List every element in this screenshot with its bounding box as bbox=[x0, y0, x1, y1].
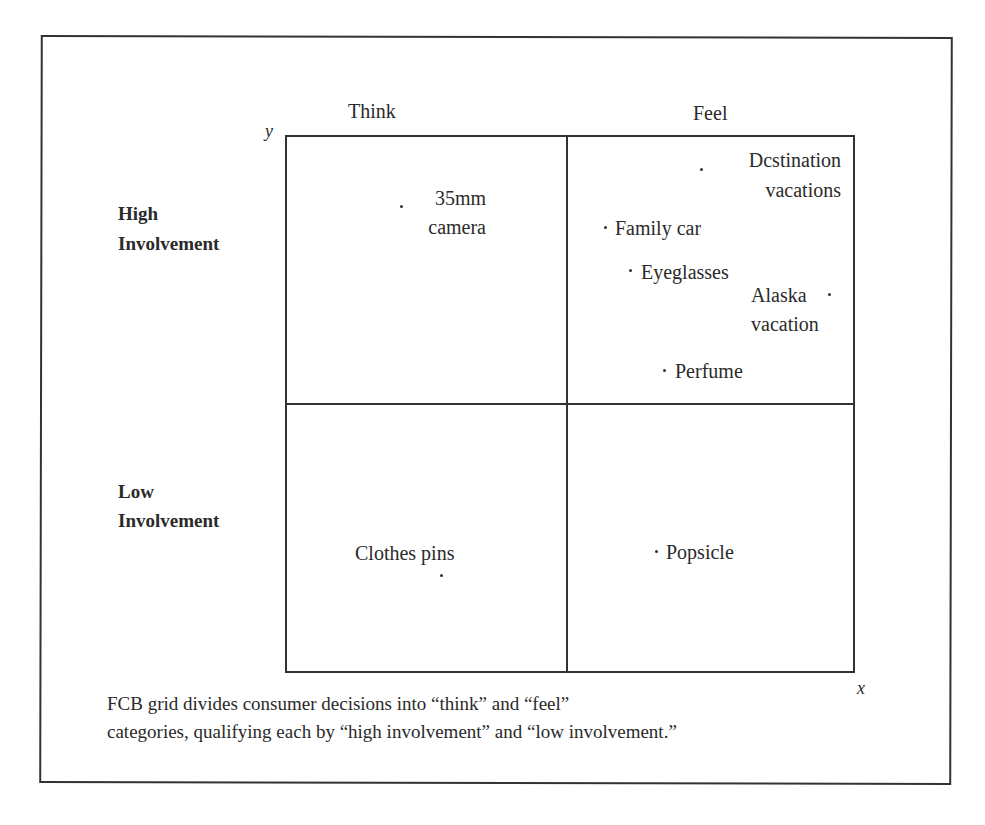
item-eyeglasses: Eyeglasses bbox=[641, 260, 729, 284]
point-dot bbox=[604, 226, 607, 229]
column-label-feel: Feel bbox=[693, 101, 727, 125]
point-dot bbox=[440, 574, 443, 577]
point-dot bbox=[655, 550, 658, 553]
fcb-grid bbox=[285, 135, 855, 673]
row-label-low-2: Involvement bbox=[118, 509, 219, 533]
item-perfume: Perfume bbox=[675, 359, 743, 383]
horizontal-divider bbox=[287, 403, 853, 405]
item-destination-2: vacations bbox=[715, 178, 841, 202]
item-family-car: Family car bbox=[615, 216, 701, 240]
y-axis-label: y bbox=[265, 119, 273, 143]
point-dot bbox=[400, 205, 403, 208]
column-label-think: Think bbox=[348, 99, 396, 123]
row-label-low-1: Low bbox=[118, 480, 154, 504]
item-camera-1: 35mm bbox=[410, 186, 486, 210]
row-label-high-2: Involvement bbox=[118, 232, 219, 256]
row-label-high-1: High bbox=[118, 202, 158, 226]
figure-caption: FCB grid divides consumer decisions into… bbox=[107, 690, 677, 746]
item-destination-1: Dcstination bbox=[715, 148, 841, 172]
point-dot bbox=[663, 369, 666, 372]
point-dot bbox=[629, 269, 632, 272]
item-clothes-pins: Clothes pins bbox=[355, 541, 454, 565]
item-alaska-1: Alaska bbox=[751, 283, 807, 307]
x-axis-label: x bbox=[857, 676, 865, 700]
caption-line-2: categories, qualifying each by “high inv… bbox=[107, 718, 677, 746]
point-dot bbox=[828, 293, 831, 296]
point-dot bbox=[700, 168, 703, 171]
item-popsicle: Popsicle bbox=[666, 540, 734, 564]
item-camera-2: camera bbox=[400, 215, 486, 239]
caption-line-1: FCB grid divides consumer decisions into… bbox=[107, 690, 677, 718]
item-alaska-2: vacation bbox=[751, 312, 819, 336]
